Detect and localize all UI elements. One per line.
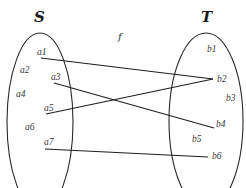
element-a1: a1 [37,47,47,57]
element-b5: b5 [192,134,202,144]
mapping-a3-b4 [54,83,214,128]
element-b6: b6 [212,151,222,161]
set-t: T b1 b2 b3 b4 b5 b6 [169,8,243,188]
element-b3: b3 [226,93,236,103]
set-t-ellipse [169,33,243,188]
element-a7: a7 [44,137,55,147]
mapping-lines [41,58,214,157]
element-a5: a5 [44,103,54,113]
element-a3: a3 [51,72,61,82]
element-b2: b2 [217,74,227,84]
function-mapping-diagram: S a1 a2 a3 a4 a5 a6 a7 T b1 b2 b3 b4 b5 … [0,0,246,188]
function-label: f [117,31,124,42]
element-b4: b4 [216,119,226,129]
element-a6: a6 [25,122,35,132]
element-a4: a4 [16,89,26,99]
mapping-a7-b6 [45,149,208,157]
set-t-title: T [201,8,214,26]
set-s: S a1 a2 a3 a4 a5 a6 a7 [7,8,73,188]
element-a2: a2 [20,65,30,75]
mapping-a5-b2 [46,79,213,114]
element-b1: b1 [207,44,217,54]
set-s-title: S [34,8,45,26]
